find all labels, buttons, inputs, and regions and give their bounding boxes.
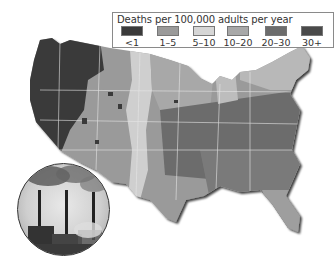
legend: Deaths per 100,000 adults per year <1 1–… [112,12,334,48]
smokestack-illustration [18,164,110,256]
legend-item: 30+ [295,26,329,48]
legend-title: Deaths per 100,000 adults per year [117,14,293,25]
legend-swatch [265,26,287,36]
legend-item: <1 [115,26,149,48]
legend-swatch [193,26,215,36]
legend-item: 20–30 [259,26,293,48]
legend-label: 10–20 [221,37,255,48]
legend-label: 20–30 [259,37,293,48]
legend-swatch [121,26,143,36]
legend-swatch [157,26,179,36]
legend-item: 10–20 [221,26,255,48]
legend-label: <1 [115,37,149,48]
smokestack-photo-inset [17,163,110,256]
legend-label: 30+ [295,37,329,48]
legend-swatch [301,26,323,36]
legend-swatch [227,26,249,36]
legend-label: 5–10 [187,37,221,48]
legend-item: 5–10 [187,26,221,48]
legend-label: 1–5 [151,37,185,48]
legend-item: 1–5 [151,26,185,48]
